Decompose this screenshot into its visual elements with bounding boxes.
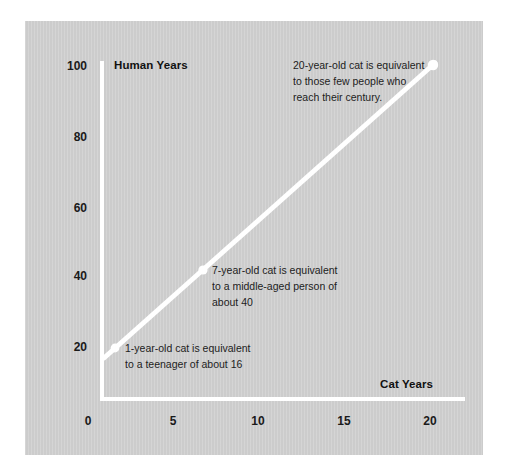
- data-line: [104, 63, 435, 358]
- annotation-1-year-line-2: to a teenager of about 16: [125, 356, 250, 372]
- y-tick-label-80: 80: [53, 131, 87, 143]
- annotation-20-year-line-1: 20-year-old cat is equivalent: [293, 57, 424, 73]
- annotation-7-year-line-1: 7-year-old cat is equivalent: [212, 262, 337, 278]
- x-axis-title: Cat Years: [380, 379, 433, 391]
- annotation-7-year-line-2: to a middle-aged person of: [212, 278, 337, 294]
- annotation-1-year-line-1: 1-year-old cat is equivalent: [125, 340, 250, 356]
- x-tick-label-15: 15: [327, 415, 361, 427]
- x-tick-label-20: 20: [413, 415, 447, 427]
- figure: 100 80 60 40 20 0 5 10 15 20 Human Years…: [0, 0, 507, 470]
- data-point-marker-1-year: [111, 344, 120, 353]
- chart-panel: 100 80 60 40 20 0 5 10 15 20 Human Years…: [25, 21, 483, 455]
- plot-area: 100 80 60 40 20 0 5 10 15 20 Human Years…: [25, 21, 483, 455]
- data-point-marker-7-year: [198, 265, 207, 274]
- x-tick-label-10: 10: [241, 415, 275, 427]
- annotation-20-year-line-3: reach their century.: [293, 89, 424, 105]
- annotation-20-year-line-2: to those few people who: [293, 73, 424, 89]
- annotation-1-year: 1-year-old cat is equivalent to a teenag…: [125, 340, 250, 372]
- y-tick-label-60: 60: [53, 202, 87, 214]
- x-tick-label-0: 0: [71, 415, 105, 427]
- annotation-20-year: 20-year-old cat is equivalent to those f…: [293, 57, 424, 105]
- annotation-7-year-line-3: about 40: [212, 294, 337, 310]
- y-axis-title: Human Years: [114, 60, 188, 72]
- data-point-marker-20-year: [428, 60, 438, 70]
- annotation-7-year: 7-year-old cat is equivalent to a middle…: [212, 262, 337, 310]
- y-tick-label-20: 20: [53, 341, 87, 353]
- x-tick-label-5: 5: [156, 415, 190, 427]
- y-tick-label-40: 40: [53, 270, 87, 282]
- y-tick-label-100: 100: [53, 60, 87, 72]
